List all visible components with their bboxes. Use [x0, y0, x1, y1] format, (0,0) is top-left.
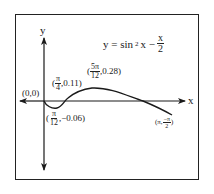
point-label-min: ( π12 ,−0.06): [46, 110, 85, 127]
point-label-end: (π, −π2 ): [155, 116, 173, 129]
y-axis-label: y: [40, 25, 46, 36]
origin-label: (0,0): [22, 89, 39, 98]
x-axis-label: x: [188, 95, 194, 106]
point-label-max: ( 5π12 ,0.28): [87, 63, 121, 80]
point-label-pi4: ( π4 ,0.11): [52, 75, 82, 92]
equation-label: y = sin2 x − x2: [103, 33, 164, 54]
